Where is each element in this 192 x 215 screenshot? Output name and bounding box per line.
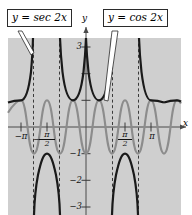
y-tick-label-minus-1: −1 [68, 148, 82, 158]
x-tick-label-minus-pi-over-2: − π 2 [38, 131, 56, 148]
y-tick-label-minus-2: −2 [68, 175, 82, 185]
y-axis-arrowhead [83, 27, 88, 33]
x-tick-numerator: π [38, 131, 56, 139]
callout-label-cos: y = cos 2x [103, 9, 168, 27]
x-tick-denominator: 2 [117, 140, 133, 148]
x-axis-label: x [183, 118, 188, 128]
trig-graph-figure: y = sec 2x y = cos 2x x y −π − π 2 π 2 π… [0, 0, 192, 215]
x-tick-label-pi: π [145, 131, 159, 141]
x-tick-label-pi-over-2: π 2 [117, 131, 133, 148]
x-tick-denominator: 2 [38, 140, 56, 148]
callout-label-sec: y = sec 2x [7, 9, 72, 27]
x-tick-numerator: π [117, 131, 133, 139]
y-axis-label: y [82, 13, 87, 23]
y-tick-label-minus-3: −3 [68, 201, 82, 211]
x-tick-minus-sign: − [33, 135, 40, 144]
plot-canvas [0, 0, 192, 215]
x-tick-label-minus-pi: −π [11, 131, 31, 141]
y-tick-label-3: 3 [72, 41, 82, 51]
